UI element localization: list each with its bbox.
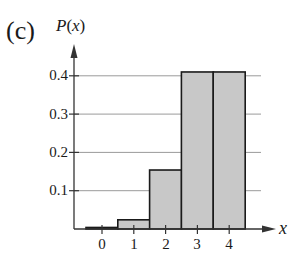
bar-2 [150,170,182,229]
x-tick-label-0: 0 [92,236,112,253]
x-tick-label-1: 1 [124,236,144,253]
x-axis-label: x [279,218,287,239]
bar-4 [213,72,245,229]
plot-area [0,0,302,268]
bar-3 [181,72,213,229]
x-tick-label-2: 2 [156,236,176,253]
probability-histogram: (c) P(x) 0.4 0.3 0.2 0.1 0 1 2 3 4 x [0,0,302,268]
y-axis-arrow-icon [71,44,78,58]
x-axis-arrow-icon [262,226,276,233]
y-tick-label-0.3: 0.3 [28,106,68,123]
x-tick-label-4: 4 [219,236,239,253]
y-tick-label-0.4: 0.4 [28,67,68,84]
y-tick-label-0.1: 0.1 [28,182,68,199]
y-tick-label-0.2: 0.2 [28,144,68,161]
x-tick-label-3: 3 [187,236,207,253]
